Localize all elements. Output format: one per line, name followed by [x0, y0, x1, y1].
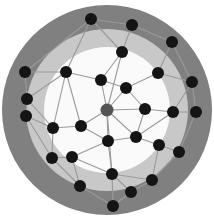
graph-node [102, 135, 114, 147]
graph-node [146, 174, 158, 186]
graph-node [21, 93, 33, 105]
graph-node-hub [101, 104, 114, 117]
graph-node [74, 180, 86, 192]
graph-node [19, 66, 31, 78]
graph-node [116, 46, 128, 58]
graph-node [166, 36, 178, 48]
graph-node [106, 168, 118, 180]
graph-node [75, 120, 87, 132]
graph-node [85, 13, 97, 25]
graph-node [120, 82, 132, 94]
graph-node [153, 139, 165, 151]
graph-node [20, 110, 32, 122]
graph-node [125, 186, 137, 198]
graph-node [186, 76, 198, 88]
graph-node [130, 131, 142, 143]
graph-node [95, 74, 107, 86]
network-graph [0, 0, 214, 219]
graph-node [190, 106, 202, 118]
graph-node [139, 103, 151, 115]
graph-node [66, 151, 78, 163]
graph-node [60, 66, 72, 78]
graph-node [47, 122, 59, 134]
graph-node [167, 106, 179, 118]
graph-node [173, 146, 185, 158]
graph-node [46, 152, 58, 164]
graph-node [152, 67, 164, 79]
graph-node [107, 200, 119, 212]
figure-root [0, 0, 214, 219]
graph-node [126, 19, 138, 31]
